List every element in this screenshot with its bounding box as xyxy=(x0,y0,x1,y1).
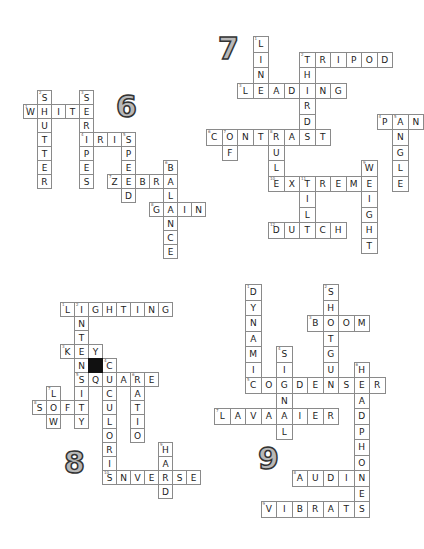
cell-letter: N xyxy=(148,305,155,315)
cell-letter: I xyxy=(80,389,83,399)
cell-letter: P xyxy=(84,149,89,159)
crossword-cell: N xyxy=(74,358,89,373)
clue-number: 12 xyxy=(270,223,275,227)
puzzle-number-label: 9 xyxy=(258,444,279,474)
cell-letter: N xyxy=(358,473,365,483)
crossword-cell: T xyxy=(338,501,355,518)
clue-number: 6 xyxy=(165,161,168,165)
crossword-cell: R xyxy=(102,442,117,457)
black-cell xyxy=(88,358,103,373)
crossword-cell: N xyxy=(315,83,332,100)
crossword-cell: P4 xyxy=(377,114,394,131)
cell-letter: K xyxy=(65,347,71,357)
cell-letter: R xyxy=(83,121,89,131)
crossword-cell: L xyxy=(102,414,117,429)
crossword-cell: Z7 xyxy=(107,174,122,189)
cell-letter: W xyxy=(49,417,58,427)
cell-letter: N xyxy=(120,473,127,483)
crossword-cell: T2 xyxy=(299,52,316,69)
cell-letter: S xyxy=(177,473,183,483)
clue-number: 3 xyxy=(81,91,84,95)
crossword-cell: E xyxy=(354,486,371,503)
cell-letter: A xyxy=(359,396,365,406)
cell-letter: S xyxy=(84,93,90,103)
cell-letter: W xyxy=(365,163,374,173)
cell-letter: I xyxy=(57,107,60,117)
cell-letter: D xyxy=(250,287,257,297)
clue-number: 6 xyxy=(356,363,359,367)
crossword-cell: N xyxy=(163,216,178,231)
cell-letter: M xyxy=(249,349,257,359)
crossword-cell: E10 xyxy=(268,176,285,193)
crossword-cell: R xyxy=(307,501,324,518)
cell-letter: C xyxy=(320,225,326,235)
crossword-cell: R xyxy=(299,98,316,115)
crossword-cell: W9 xyxy=(361,160,378,177)
cell-letter: E xyxy=(191,473,197,483)
crossword-cell: T xyxy=(37,132,52,147)
crossword-cell: L xyxy=(163,188,178,203)
crossword-cell: E xyxy=(354,377,371,394)
cell-letter: E xyxy=(149,473,155,483)
crossword-cell: D12 xyxy=(268,222,285,239)
cell-letter: G xyxy=(162,305,169,315)
crossword-cell: M xyxy=(245,346,262,363)
clue-number: 1 xyxy=(247,285,250,289)
cell-letter: L xyxy=(274,163,279,173)
crossword-cell: N xyxy=(74,316,89,331)
clue-number: 8 xyxy=(151,203,154,207)
cell-letter: E xyxy=(84,107,90,117)
cell-letter: P xyxy=(382,117,387,127)
crossword-cell: T xyxy=(74,400,89,415)
crossword-cell: I xyxy=(107,132,122,147)
clue-number: 10 xyxy=(270,177,275,181)
crossword-cell: U xyxy=(37,118,52,133)
cell-letter: H xyxy=(335,225,342,235)
crossword-cell: H6 xyxy=(354,362,371,379)
cell-letter: I xyxy=(136,305,139,315)
cell-letter: Y xyxy=(79,417,85,427)
crossword-cell: S2 xyxy=(37,90,52,105)
crossword-cell: R xyxy=(369,377,386,394)
crossword-cell: T xyxy=(323,331,340,348)
crossword-cell: W xyxy=(46,414,61,429)
cell-letter: O xyxy=(366,55,373,65)
crossword-cell: T xyxy=(74,330,89,345)
crossword-cell: A xyxy=(163,202,178,217)
crossword-cell: D xyxy=(299,114,316,131)
cell-letter: D xyxy=(296,380,303,390)
cell-letter: E xyxy=(312,411,318,421)
cell-letter: N xyxy=(281,396,288,406)
cell-letter: M xyxy=(350,179,358,189)
clue-number: 3 xyxy=(239,84,242,88)
crossword-cell: L xyxy=(268,160,285,177)
cell-letter: T xyxy=(305,55,311,65)
cell-letter: T xyxy=(135,403,141,413)
crossword-cell: C5 xyxy=(245,377,262,394)
crossword-cell: I xyxy=(361,191,378,208)
puzzle-number-label: 8 xyxy=(64,448,85,478)
cell-letter: T xyxy=(320,132,326,142)
cell-letter: G xyxy=(366,210,373,220)
crossword-cell: R xyxy=(149,174,164,189)
cell-letter: P xyxy=(126,149,131,159)
cell-letter: G xyxy=(397,148,404,158)
crossword-cell: E xyxy=(163,244,178,259)
crossword-cell: D xyxy=(354,408,371,425)
crossword-cell: T xyxy=(253,129,270,146)
crossword-cell: P xyxy=(354,424,371,441)
cell-letter: T xyxy=(305,225,311,235)
cell-letter: V xyxy=(250,411,256,421)
cell-letter: V xyxy=(134,473,140,483)
cell-letter: I xyxy=(113,135,116,145)
crossword-cell: I xyxy=(74,386,89,401)
clue-number: 6 xyxy=(132,373,135,377)
cell-letter: L xyxy=(51,389,56,399)
clue-number: 7 xyxy=(48,387,51,391)
crossword-cell: T xyxy=(299,222,316,239)
cell-letter: D xyxy=(327,473,334,483)
crossword-cell: I2 xyxy=(74,302,89,317)
cell-letter: C xyxy=(167,233,173,243)
crossword-cell: A xyxy=(245,331,262,348)
crossword-cell: C xyxy=(315,222,332,239)
